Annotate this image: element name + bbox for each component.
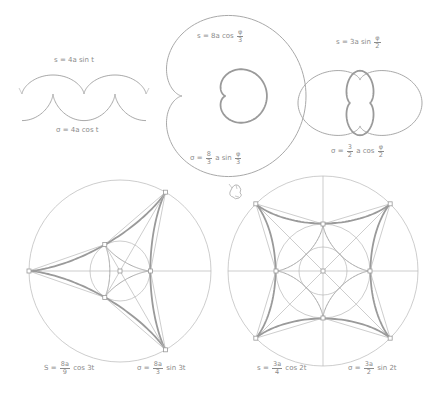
label-lhs: σ bbox=[348, 364, 352, 372]
label-eq: = bbox=[63, 126, 69, 134]
cardioid-inner bbox=[221, 69, 267, 123]
cardioid-sigma-label: σ = 83 a sin φ3 bbox=[190, 151, 242, 166]
nephroid-inner bbox=[346, 71, 373, 135]
vertex-node bbox=[368, 269, 372, 273]
vertex-node bbox=[27, 269, 31, 273]
deltoid-s-label: S = 8a9 cos 3t bbox=[44, 361, 94, 376]
denominator: 2 bbox=[379, 152, 383, 159]
cycloid-sigma-label: σ = 4a cos t bbox=[56, 127, 99, 134]
label-rhs: cos 3t bbox=[73, 364, 94, 372]
label-lhs: s bbox=[336, 38, 340, 46]
label-eq: = bbox=[203, 32, 209, 40]
label-rhs: 4a cos t bbox=[71, 126, 99, 134]
vertex-node bbox=[164, 190, 168, 194]
cardioid-arclength-label: s = 8a cos φ3 bbox=[197, 29, 244, 44]
denominator: 2 bbox=[348, 152, 352, 159]
label-eq: = bbox=[342, 38, 348, 46]
vertex-node bbox=[118, 269, 122, 273]
label-lhs: s bbox=[257, 364, 261, 372]
cycloid-evolute-arch bbox=[53, 94, 115, 121]
vertex-node bbox=[254, 202, 258, 206]
label-eq: = bbox=[197, 154, 203, 162]
denominator: 4 bbox=[275, 369, 279, 376]
construction-line bbox=[105, 192, 166, 297]
label-eq: = bbox=[144, 364, 150, 372]
fraction: φ2 bbox=[378, 144, 384, 159]
label-lhs: s bbox=[197, 32, 201, 40]
cycloid-arch bbox=[22, 75, 84, 94]
cycloid-end-tick bbox=[19, 88, 22, 94]
vertex-node bbox=[321, 316, 325, 320]
label-lhs: s bbox=[54, 56, 58, 64]
cycloid-evolute-arch bbox=[0, 94, 53, 121]
label-rhs: cos 2t bbox=[285, 364, 306, 372]
denominator: 2 bbox=[367, 369, 371, 376]
denominator: 9 bbox=[63, 369, 67, 376]
fraction: φ2 bbox=[374, 35, 380, 50]
label-eq: = bbox=[51, 364, 57, 372]
cycloid-figure bbox=[0, 75, 177, 121]
denominator: 2 bbox=[375, 43, 379, 50]
label-eq: = bbox=[263, 364, 269, 372]
label-eq: = bbox=[338, 147, 344, 155]
fraction: φ3 bbox=[237, 29, 243, 44]
label-lhs: σ bbox=[137, 364, 141, 372]
denominator: 3 bbox=[238, 37, 242, 44]
cycloid-end-tick bbox=[146, 88, 149, 94]
label-eq: = bbox=[355, 364, 361, 372]
fraction: 83 bbox=[206, 151, 212, 166]
label-lhs: σ bbox=[190, 154, 194, 162]
fraction: 3a2 bbox=[364, 361, 374, 376]
label-eq: = bbox=[60, 56, 66, 64]
deltoid-figure bbox=[27, 180, 211, 362]
vertex-node bbox=[254, 336, 258, 340]
astroid-sigma-label: σ = 3a2 sin 2t bbox=[348, 361, 397, 376]
label-rhs: sin 3t bbox=[166, 364, 185, 372]
vertex-node bbox=[148, 269, 152, 273]
denominator: 3 bbox=[156, 369, 160, 376]
vertex-node bbox=[388, 202, 392, 206]
cycloid-arclength-label: s = 4a sin t bbox=[54, 57, 94, 64]
label-lhs: S bbox=[44, 364, 48, 372]
vertex-node bbox=[274, 269, 278, 273]
fraction: 32 bbox=[347, 144, 353, 159]
label-rhs: 3a sin bbox=[350, 38, 371, 46]
label-mid: a sin bbox=[215, 154, 232, 162]
label-mid: a cos bbox=[356, 147, 374, 155]
nephroid-arclength-label: s = 3a sin φ2 bbox=[336, 35, 382, 50]
cycloid-arch bbox=[84, 75, 146, 94]
label-rhs: 4a sin t bbox=[68, 56, 94, 64]
denominator: 3 bbox=[207, 159, 211, 166]
fraction: 8a9 bbox=[60, 361, 70, 376]
nephroid-sigma-label: σ = 32 a cos φ2 bbox=[331, 144, 385, 159]
astroid-figure bbox=[228, 176, 418, 366]
label-rhs: sin 2t bbox=[377, 364, 396, 372]
astroid-s-label: s = 3a4 cos 2t bbox=[257, 361, 307, 376]
vertex-node bbox=[321, 269, 325, 273]
label-lhs: σ bbox=[331, 147, 335, 155]
construction-line bbox=[105, 245, 166, 350]
label-lhs: σ bbox=[56, 126, 60, 134]
vertex-node bbox=[321, 222, 325, 226]
label-rhs: 8a cos bbox=[211, 32, 234, 40]
fraction: φ3 bbox=[235, 151, 241, 166]
vertex-node bbox=[388, 336, 392, 340]
fraction: 8a3 bbox=[153, 361, 163, 376]
deltoid-sigma-label: σ = 8a3 sin 3t bbox=[137, 361, 186, 376]
vertex-node bbox=[103, 295, 107, 299]
vertex-node bbox=[164, 348, 168, 352]
cursor-smudge-icon bbox=[229, 184, 241, 199]
cycloid-evolute-arch bbox=[115, 94, 177, 121]
vertex-node bbox=[103, 243, 107, 247]
denominator: 3 bbox=[236, 159, 240, 166]
nephroid-outer bbox=[298, 71, 422, 136]
fraction: 3a4 bbox=[272, 361, 282, 376]
nephroid-figure bbox=[298, 71, 422, 136]
